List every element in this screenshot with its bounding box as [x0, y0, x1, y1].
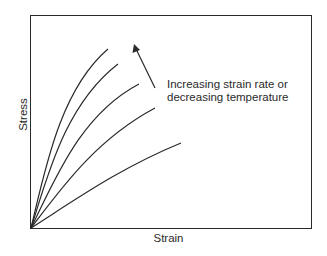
annotation-text: Increasing strain rate or decreasing tem… — [167, 78, 288, 104]
arrow-icon — [133, 44, 156, 88]
stress-strain-diagram — [0, 0, 327, 256]
curve-2 — [31, 108, 155, 228]
y-axis-label: Stress — [17, 90, 30, 140]
plot-frame — [31, 16, 312, 229]
curve-1 — [31, 143, 181, 228]
curves — [31, 49, 181, 228]
curve-5 — [31, 49, 108, 228]
x-axis-label: Strain — [0, 232, 327, 245]
annotation-line-1: Increasing strain rate or — [167, 78, 288, 91]
annotation-line-2: decreasing temperature — [167, 91, 288, 104]
